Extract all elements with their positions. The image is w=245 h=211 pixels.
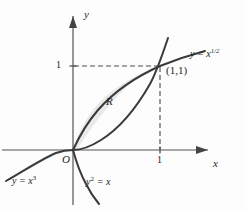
origin-label: O — [62, 154, 70, 165]
curve-label-cubic: y = x3 — [12, 175, 36, 186]
curve-label-cubic-text: y = x — [12, 175, 33, 186]
intersection-point-label: (1,1) — [166, 65, 187, 76]
curve-label-sqrt-exponent: 1/2 — [211, 47, 220, 54]
plot-canvas — [0, 0, 245, 211]
curve-cubic — [6, 38, 168, 181]
curve-label-sqrt-text: y = x — [190, 48, 211, 59]
curve-label-sqrt: y = x1/2 — [190, 48, 219, 59]
x-axis-label: x — [213, 158, 218, 169]
y-axis-label: y — [84, 9, 89, 20]
x-axis-arrowhead — [196, 146, 208, 154]
y-tick-label-1: 1 — [56, 60, 61, 70]
curve-label-cubic-exponent: 3 — [33, 174, 36, 181]
x-tick-label-1: 1 — [157, 155, 162, 165]
shaded-region-r — [73, 66, 160, 150]
curve-label-ysquared: y2= x — [86, 176, 111, 187]
curve-label-ysquared-tail: = x — [94, 176, 111, 187]
region-label-r: R — [106, 96, 113, 107]
y-axis-arrowhead — [69, 16, 77, 28]
figure-region-between-curves: y x O 1 1 (1,1) R y = x1/2 y = x3 y2= x — [0, 0, 245, 211]
